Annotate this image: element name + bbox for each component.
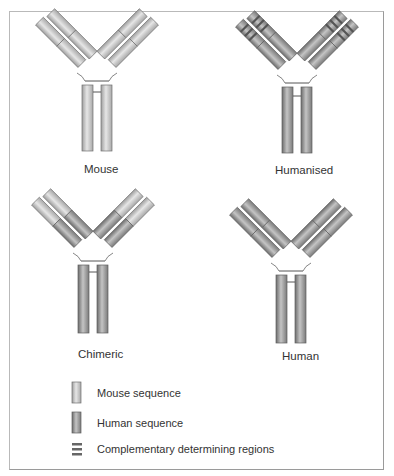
label-human: Human (282, 350, 319, 362)
label-humanised: Humanised (275, 164, 333, 176)
legend-mouse-icon (72, 382, 81, 403)
legend-human-label: Human sequence (97, 417, 183, 429)
legend-cdr-stripes-icon (72, 443, 82, 456)
antibody-mouse (36, 7, 159, 151)
legend-mouse-label: Mouse sequence (97, 387, 181, 399)
antibody-human (230, 197, 353, 343)
label-mouse: Mouse (84, 163, 119, 175)
antibody-humanised (236, 9, 359, 153)
legend-human-icon (72, 412, 81, 433)
legend-cdr-label: Complementary determining regions (97, 443, 274, 455)
antibody-diagram (0, 0, 394, 476)
antibody-chimeric (32, 187, 155, 333)
label-chimeric: Chimeric (78, 348, 123, 360)
